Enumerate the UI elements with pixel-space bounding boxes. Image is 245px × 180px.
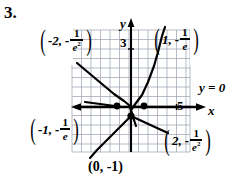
point-label-bottom-left: ( -1, - 1 e ) xyxy=(28,117,81,141)
point-x: -2, xyxy=(48,34,62,47)
point-x: 1, xyxy=(162,33,172,46)
fraction: 1 e xyxy=(60,117,70,141)
point-sign: - xyxy=(172,33,179,46)
point-label-top-right: ( 1, - 1 e ) xyxy=(152,27,201,51)
y-axis-tick-label: 3 xyxy=(120,36,127,49)
fraction-numerator: 1 xyxy=(60,117,70,128)
paren-close: ) xyxy=(206,129,212,151)
fraction-numerator: 1 xyxy=(180,27,190,38)
fraction-numerator: 1 xyxy=(192,128,202,139)
fraction-denominator: e2 xyxy=(70,41,82,53)
fraction-numerator: 1 xyxy=(72,28,82,39)
point-label-bottom-right: ( 2, - 1 e2 ) xyxy=(162,128,213,152)
fraction-denominator: e2 xyxy=(190,141,202,153)
point-label-bottom-center: (0, -1) xyxy=(88,160,123,174)
x-axis-label: x xyxy=(208,104,215,117)
point-sign: - xyxy=(62,34,69,47)
x-axis-tick-label: 5 xyxy=(177,99,184,112)
paren-open: ( xyxy=(40,29,46,51)
point-x: -1, xyxy=(38,123,52,136)
point-sign: - xyxy=(52,123,59,136)
fraction-denominator: e xyxy=(180,40,189,52)
y-axis-label: y xyxy=(120,17,126,30)
paren-open: ( xyxy=(164,129,170,151)
fraction-denominator: e xyxy=(61,130,70,142)
paren-close: ) xyxy=(86,29,92,51)
y-axis xyxy=(128,18,135,152)
fraction: 1 e xyxy=(180,27,190,51)
problem-number: 3. xyxy=(4,4,17,21)
point-sign: - xyxy=(182,134,189,147)
point-x: 2, xyxy=(172,134,182,147)
paren-open: ( xyxy=(30,118,36,140)
asymptote-label: y = 0 xyxy=(199,81,225,94)
paren-close: ) xyxy=(73,118,79,140)
paren-open: ( xyxy=(154,28,160,50)
fraction: 1 e2 xyxy=(190,128,202,152)
point-label-top-left: ( -2, - 1 e2 ) xyxy=(38,28,94,52)
fraction: 1 e2 xyxy=(70,28,82,52)
paren-close: ) xyxy=(193,28,199,50)
